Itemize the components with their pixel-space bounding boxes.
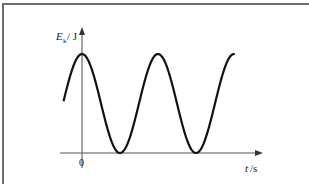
x-axis-label-main: t bbox=[245, 162, 249, 174]
y-axis-arrow-icon bbox=[79, 27, 85, 35]
x-axis-label-unit: /s bbox=[250, 162, 257, 174]
y-axis-label-main: E bbox=[55, 30, 63, 42]
ek-curve bbox=[64, 54, 234, 153]
chart-canvas: E k / J 0 t /s bbox=[0, 0, 309, 184]
x-axis-arrow-icon bbox=[255, 150, 263, 156]
x-tick-zero: 0 bbox=[79, 157, 84, 168]
y-axis-label-unit: / J bbox=[67, 30, 78, 42]
